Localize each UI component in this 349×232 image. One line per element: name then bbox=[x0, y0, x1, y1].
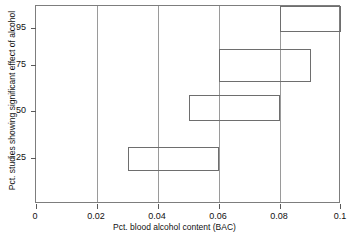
x-tick-0_1 bbox=[340, 204, 341, 209]
x-tick-label-0: 0 bbox=[15, 212, 55, 221]
gridline-x-0_04 bbox=[158, 6, 159, 202]
y-axis-title: Pct. studies showing significant effect … bbox=[8, 1, 17, 201]
x-tick-0_02 bbox=[97, 204, 98, 209]
chart-figure: 25507595 00.020.040.060.080.1 Pct. blood… bbox=[0, 0, 349, 232]
plot-area bbox=[35, 5, 340, 203]
x-tick-label-0_04: 0.04 bbox=[137, 212, 177, 221]
bar-95 bbox=[280, 6, 341, 32]
gridline-x-0_08 bbox=[280, 6, 281, 202]
x-tick-label-0_1: 0.1 bbox=[320, 212, 349, 221]
x-tick-0_08 bbox=[280, 204, 281, 209]
y-tick-25 bbox=[31, 158, 36, 159]
gridline-x-0_02 bbox=[97, 6, 98, 202]
y-tick-95 bbox=[31, 28, 36, 29]
x-tick-label-0_06: 0.06 bbox=[198, 212, 238, 221]
x-tick-0_04 bbox=[158, 204, 159, 209]
y-tick-75 bbox=[31, 65, 36, 66]
x-axis-title: Pct. blood alcohol content (BAC) bbox=[0, 223, 349, 232]
bar-25 bbox=[128, 147, 220, 171]
x-tick-label-0_02: 0.02 bbox=[76, 212, 116, 221]
x-tick-0 bbox=[36, 204, 37, 209]
x-tick-0_06 bbox=[219, 204, 220, 209]
x-tick-label-0_08: 0.08 bbox=[259, 212, 299, 221]
bar-50 bbox=[189, 95, 281, 121]
y-tick-50 bbox=[31, 111, 36, 112]
bar-75 bbox=[219, 49, 311, 82]
